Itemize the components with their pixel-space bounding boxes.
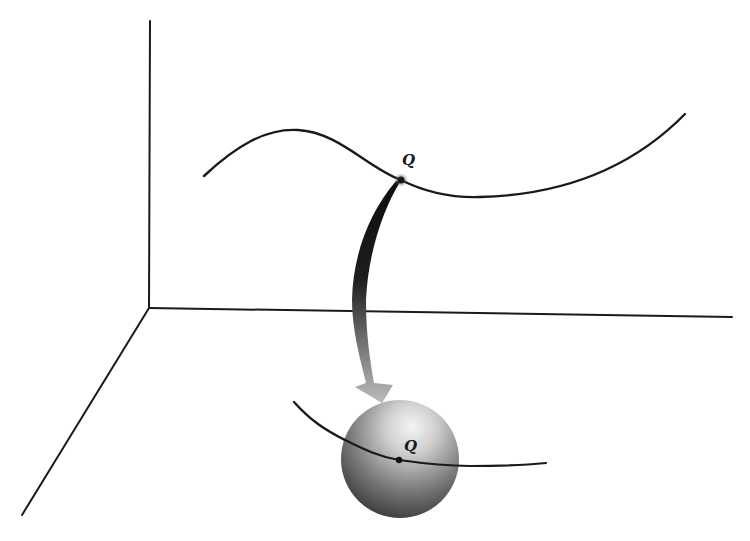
sphere-point-label: Q	[404, 437, 417, 455]
sphere-point-q	[396, 457, 402, 463]
gauss-map-diagram: Q Q	[0, 0, 750, 541]
x-axis	[22, 308, 149, 515]
z-axis	[149, 21, 150, 308]
space-point-q	[398, 177, 405, 184]
space-curve	[204, 114, 685, 197]
y-axis	[149, 308, 732, 317]
space-point-label: Q	[402, 151, 415, 169]
gauss-map-arrow	[352, 181, 400, 403]
sphere-curve-left	[294, 402, 345, 440]
